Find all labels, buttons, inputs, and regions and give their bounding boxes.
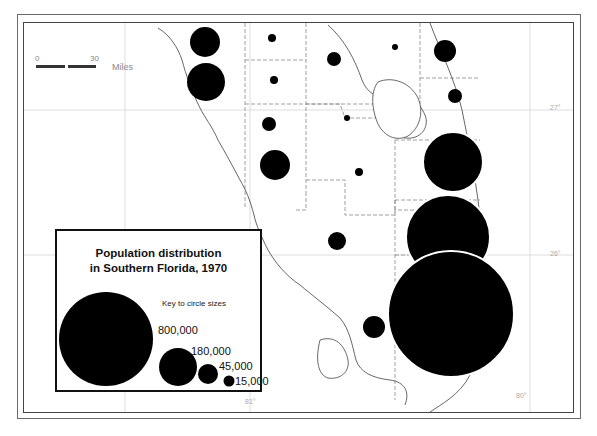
population-circle — [190, 27, 220, 57]
legend-value-15000: 15,000 — [235, 375, 269, 387]
legend-circle-800000 — [59, 292, 153, 386]
scale-unit-label: Miles — [112, 62, 133, 72]
population-circle — [187, 63, 225, 101]
population-circle — [262, 117, 276, 131]
population-circle — [388, 251, 514, 377]
population-circle — [355, 168, 363, 176]
lat-27-label: 27° — [550, 104, 561, 111]
population-circle — [270, 76, 278, 84]
population-circle — [328, 232, 346, 250]
legend-box: Population distribution in Southern Flor… — [55, 229, 262, 392]
scale-start-label: 0 — [35, 54, 39, 63]
lake-okeechobee — [373, 80, 421, 139]
population-circle — [434, 40, 456, 62]
legend-circle-45000 — [198, 364, 218, 384]
lat-26-label: 26° — [550, 250, 561, 257]
legend-value-45000: 45,000 — [219, 360, 253, 372]
lon-81-label: 81° — [245, 398, 256, 405]
population-circle — [392, 44, 398, 50]
population-circle — [448, 89, 462, 103]
legend-value-800000: 800,000 — [158, 324, 198, 336]
legend-value-180000: 180,000 — [191, 345, 231, 357]
population-circle — [327, 52, 341, 66]
population-circle — [260, 150, 290, 180]
scale-bar — [36, 65, 96, 68]
scale-end-label: 30 — [90, 54, 99, 63]
population-circle — [423, 132, 483, 192]
population-circle — [344, 115, 350, 121]
population-circle — [268, 34, 276, 42]
lon-80-label: 80° — [516, 392, 527, 399]
population-circle — [363, 316, 385, 338]
legend-circle-15000 — [224, 376, 235, 387]
